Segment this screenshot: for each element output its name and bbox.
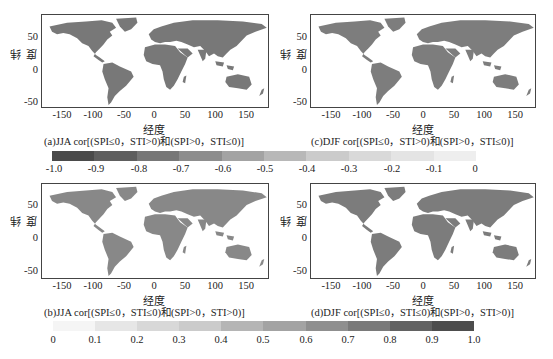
colorbar-bin [434, 151, 476, 161]
colorbar-bin [179, 151, 221, 161]
caption-a: (a)JJA cor[(SPI≤0，STI>0)和(SPI>0，STI≤0)] [44, 133, 244, 148]
y-axis-label-a: 纬度 [8, 48, 40, 60]
colorbar-bin [349, 151, 391, 161]
x-tick: 0 [408, 110, 438, 120]
x-tick: -50 [378, 281, 408, 291]
y-axis-label-d: 纬度 [278, 215, 310, 227]
x-tick: 50 [439, 281, 469, 291]
world-map-c [311, 15, 535, 107]
y-tick: 50 [281, 32, 307, 42]
colorbar-bin [390, 321, 432, 331]
x-tick: 150 [500, 110, 530, 120]
colorbar-bin [53, 321, 95, 331]
colorbar-tick: 0.6 [291, 334, 321, 345]
x-tick: 100 [200, 110, 230, 120]
caption-c: (c)DJF cor[(SPI≤0，STI>0)和(SPI>0，STI≤0)] [311, 133, 513, 148]
colorbar-bin [264, 151, 306, 161]
colorbar-bin [391, 151, 433, 161]
colorbar-tick: -0.2 [377, 163, 407, 174]
colorbar-tick: 0.8 [375, 334, 405, 345]
colorbar-tick: -0.8 [124, 163, 154, 174]
caption-d: (d)DJF cor[(SPI≤0，STI≤0)和(SPI>0，STI>0)] [311, 304, 514, 319]
y-tick: -50 [12, 97, 38, 107]
x-tick: -100 [78, 110, 108, 120]
x-tick: 100 [469, 281, 499, 291]
world-map-a [42, 15, 268, 107]
y-tick: 0 [12, 65, 38, 75]
colorbar-tick: 0.3 [164, 334, 194, 345]
map-frame-a [41, 14, 269, 108]
colorbar-tick: 0 [38, 334, 68, 345]
colorbar-bin [348, 321, 390, 331]
colorbar-bin [432, 321, 474, 331]
colorbar-tick: 1.0 [459, 334, 489, 345]
colorbar-tick: 0.7 [333, 334, 363, 345]
map-frame-c [310, 14, 536, 108]
colorbar-tick: -1.0 [39, 163, 69, 174]
colorbar-tick: 0.4 [206, 334, 236, 345]
x-tick: 100 [469, 110, 499, 120]
colorbar-tick: -0.7 [166, 163, 196, 174]
x-tick: -50 [109, 281, 139, 291]
y-axis-label-b: 纬度 [8, 215, 40, 227]
colorbar-tick: -0.4 [292, 163, 322, 174]
x-tick: 50 [170, 110, 200, 120]
y-axis-label-c: 纬度 [278, 48, 310, 60]
map-frame-b [41, 183, 269, 279]
colorbar-bin [222, 151, 264, 161]
x-tick: -100 [347, 110, 377, 120]
colorbar-bin [263, 321, 305, 331]
world-map-d [311, 184, 535, 278]
colorbar-tick: -0.6 [208, 163, 238, 174]
x-tick: -100 [347, 281, 377, 291]
map-frame-d [310, 183, 536, 279]
x-tick: -100 [78, 281, 108, 291]
y-tick: 50 [12, 200, 38, 210]
colorbar-positive [53, 321, 474, 331]
x-tick: -50 [109, 110, 139, 120]
colorbar-tick: -0.3 [334, 163, 364, 174]
colorbar-tick: 0.9 [417, 334, 447, 345]
colorbar-bin [52, 151, 94, 161]
colorbar-tick: -0.5 [250, 163, 280, 174]
colorbar-bin [137, 321, 179, 331]
x-tick: 150 [231, 110, 261, 120]
x-tick: -150 [47, 110, 77, 120]
y-tick: -50 [281, 97, 307, 107]
colorbar-bin [95, 321, 137, 331]
colorbar-bin [94, 151, 136, 161]
colorbar-tick: 0.5 [248, 334, 278, 345]
y-tick: 0 [12, 233, 38, 243]
x-tick: 0 [408, 281, 438, 291]
x-tick: 0 [139, 110, 169, 120]
colorbar-bin [221, 321, 263, 331]
y-tick: -50 [12, 266, 38, 276]
colorbar-negative [52, 151, 476, 161]
x-tick: -150 [47, 281, 77, 291]
colorbar-tick: 0 [460, 163, 490, 174]
colorbar-tick: -0.9 [81, 163, 111, 174]
x-tick: 150 [231, 281, 261, 291]
colorbar-tick: -0.1 [419, 163, 449, 174]
colorbar-bin [306, 321, 348, 331]
caption-b: (b)JJA cor[(SPI≤0，STI≤0)和(SPI>0，STI>0)] [44, 304, 245, 319]
x-tick: 150 [500, 281, 530, 291]
colorbar-bin [137, 151, 179, 161]
x-tick: 100 [200, 281, 230, 291]
y-tick: 0 [281, 65, 307, 75]
x-tick: 50 [439, 110, 469, 120]
x-tick: -150 [316, 281, 346, 291]
world-map-b [42, 184, 268, 278]
x-tick: -150 [316, 110, 346, 120]
x-tick: 50 [170, 281, 200, 291]
y-tick: 50 [281, 200, 307, 210]
y-tick: 50 [12, 32, 38, 42]
y-tick: -50 [281, 266, 307, 276]
colorbar-tick: 0.2 [122, 334, 152, 345]
y-tick: 0 [281, 233, 307, 243]
x-tick: -50 [378, 110, 408, 120]
colorbar-bin [306, 151, 348, 161]
colorbar-bin [179, 321, 221, 331]
colorbar-tick: 0.1 [80, 334, 110, 345]
x-tick: 0 [139, 281, 169, 291]
